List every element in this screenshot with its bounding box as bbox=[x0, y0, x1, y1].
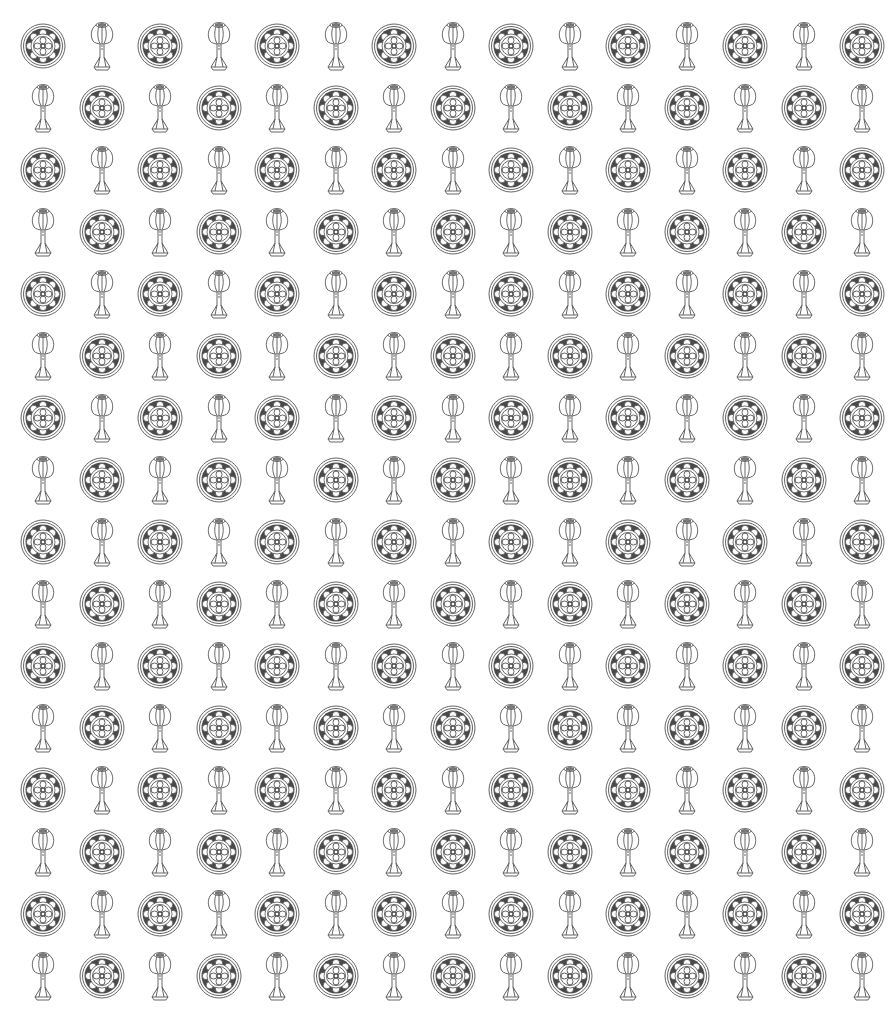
lotus-lamp-icon bbox=[191, 760, 247, 820]
lotus-lamp-icon bbox=[308, 140, 364, 200]
lotus-lamp-icon bbox=[600, 822, 656, 882]
medallion-icon bbox=[191, 822, 247, 882]
medallion-icon bbox=[483, 884, 539, 944]
lotus-lamp-icon bbox=[717, 822, 773, 882]
lotus-lamp-icon bbox=[15, 450, 71, 510]
lotus-lamp-icon bbox=[249, 822, 305, 882]
medallion-icon bbox=[717, 264, 773, 324]
lotus-lamp-icon bbox=[425, 140, 481, 200]
medallion-icon bbox=[834, 140, 889, 200]
medallion-icon bbox=[132, 636, 188, 696]
medallion-icon bbox=[834, 884, 889, 944]
medallion-icon bbox=[249, 16, 305, 76]
medallion-icon bbox=[15, 140, 71, 200]
lotus-lamp-icon bbox=[659, 388, 715, 448]
lotus-lamp-icon bbox=[659, 16, 715, 76]
lotus-lamp-icon bbox=[542, 388, 598, 448]
medallion-icon bbox=[776, 822, 832, 882]
lotus-lamp-icon bbox=[308, 264, 364, 324]
lotus-lamp-icon bbox=[132, 574, 188, 634]
lotus-lamp-icon bbox=[191, 264, 247, 324]
medallion-icon bbox=[659, 450, 715, 510]
lotus-lamp-icon bbox=[600, 698, 656, 758]
lotus-lamp-icon bbox=[425, 636, 481, 696]
lotus-lamp-icon bbox=[74, 140, 130, 200]
medallion-icon bbox=[425, 822, 481, 882]
medallion-icon bbox=[776, 450, 832, 510]
medallion-icon bbox=[542, 78, 598, 138]
medallion-icon bbox=[776, 698, 832, 758]
medallion-icon bbox=[249, 140, 305, 200]
medallion-icon bbox=[600, 512, 656, 572]
lotus-lamp-icon bbox=[308, 884, 364, 944]
medallion-icon bbox=[834, 512, 889, 572]
lotus-lamp-icon bbox=[659, 884, 715, 944]
lotus-lamp-icon bbox=[600, 946, 656, 1006]
medallion-icon bbox=[834, 16, 889, 76]
lotus-lamp-icon bbox=[717, 698, 773, 758]
medallion-icon bbox=[74, 326, 130, 386]
lotus-lamp-icon bbox=[483, 202, 539, 262]
medallion-icon bbox=[834, 760, 889, 820]
medallion-icon bbox=[542, 574, 598, 634]
medallion-icon bbox=[542, 822, 598, 882]
lotus-lamp-icon bbox=[776, 884, 832, 944]
lotus-lamp-icon bbox=[659, 760, 715, 820]
lotus-lamp-icon bbox=[366, 946, 422, 1006]
medallion-icon bbox=[425, 326, 481, 386]
medallion-icon bbox=[425, 450, 481, 510]
medallion-icon bbox=[366, 140, 422, 200]
medallion-icon bbox=[74, 78, 130, 138]
medallion-icon bbox=[366, 264, 422, 324]
medallion-icon bbox=[308, 450, 364, 510]
lotus-lamp-icon bbox=[776, 140, 832, 200]
lotus-lamp-icon bbox=[191, 388, 247, 448]
medallion-icon bbox=[717, 140, 773, 200]
medallion-icon bbox=[249, 388, 305, 448]
lotus-lamp-icon bbox=[776, 264, 832, 324]
lotus-lamp-icon bbox=[132, 450, 188, 510]
medallion-icon bbox=[600, 140, 656, 200]
lotus-lamp-icon bbox=[366, 326, 422, 386]
medallion-icon bbox=[600, 16, 656, 76]
medallion-icon bbox=[15, 636, 71, 696]
medallion-icon bbox=[15, 16, 71, 76]
lotus-lamp-icon bbox=[425, 760, 481, 820]
lotus-lamp-icon bbox=[600, 450, 656, 510]
lotus-lamp-icon bbox=[74, 388, 130, 448]
lotus-lamp-icon bbox=[659, 264, 715, 324]
medallion-icon bbox=[600, 388, 656, 448]
medallion-icon bbox=[717, 884, 773, 944]
medallion-icon bbox=[542, 326, 598, 386]
medallion-icon bbox=[659, 698, 715, 758]
medallion-icon bbox=[308, 946, 364, 1006]
medallion-icon bbox=[717, 512, 773, 572]
medallion-icon bbox=[659, 822, 715, 882]
medallion-icon bbox=[308, 326, 364, 386]
lotus-lamp-icon bbox=[366, 78, 422, 138]
lotus-lamp-icon bbox=[776, 512, 832, 572]
lotus-lamp-icon bbox=[600, 78, 656, 138]
lotus-lamp-icon bbox=[308, 760, 364, 820]
lotus-lamp-icon bbox=[191, 884, 247, 944]
medallion-icon bbox=[74, 574, 130, 634]
medallion-icon bbox=[191, 450, 247, 510]
medallion-icon bbox=[425, 946, 481, 1006]
lotus-lamp-icon bbox=[191, 512, 247, 572]
lotus-lamp-icon bbox=[717, 202, 773, 262]
lotus-lamp-icon bbox=[425, 264, 481, 324]
medallion-icon bbox=[600, 884, 656, 944]
lotus-lamp-icon bbox=[249, 450, 305, 510]
lotus-lamp-icon bbox=[249, 574, 305, 634]
medallion-icon bbox=[659, 78, 715, 138]
lotus-lamp-icon bbox=[15, 698, 71, 758]
lotus-lamp-icon bbox=[542, 140, 598, 200]
medallion-icon bbox=[308, 698, 364, 758]
lotus-lamp-icon bbox=[366, 574, 422, 634]
medallion-icon bbox=[366, 636, 422, 696]
lotus-lamp-icon bbox=[249, 326, 305, 386]
lotus-lamp-icon bbox=[366, 450, 422, 510]
medallion-icon bbox=[776, 78, 832, 138]
medallion-icon bbox=[191, 946, 247, 1006]
